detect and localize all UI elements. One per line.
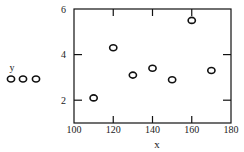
x-tick-label: 120 xyxy=(106,124,121,135)
data-point-marker xyxy=(149,65,156,71)
scatter-chart: 100120140160180246 y x xyxy=(0,0,244,152)
x-tick-label: 180 xyxy=(224,124,239,135)
legend-marker-icon xyxy=(7,76,14,82)
data-point-marker xyxy=(188,17,195,23)
y-tick-label: 2 xyxy=(61,95,66,106)
x-tick-label: 100 xyxy=(67,124,82,135)
y-tick-label: 6 xyxy=(61,4,66,15)
x-tick-label: 160 xyxy=(184,124,199,135)
data-point-marker xyxy=(110,45,117,51)
legend-marker-icon xyxy=(19,76,26,82)
y-tick-label: 4 xyxy=(61,49,66,60)
x-tick-label: 140 xyxy=(145,124,160,135)
data-point-marker xyxy=(90,95,97,101)
legend: y xyxy=(7,62,39,82)
data-point-marker xyxy=(129,72,136,78)
legend-label: y xyxy=(10,62,15,73)
x-axis-label: x xyxy=(154,138,160,150)
data-points xyxy=(90,17,215,101)
data-point-marker xyxy=(169,77,176,83)
legend-marker-icon xyxy=(32,76,39,82)
data-point-marker xyxy=(208,68,215,74)
